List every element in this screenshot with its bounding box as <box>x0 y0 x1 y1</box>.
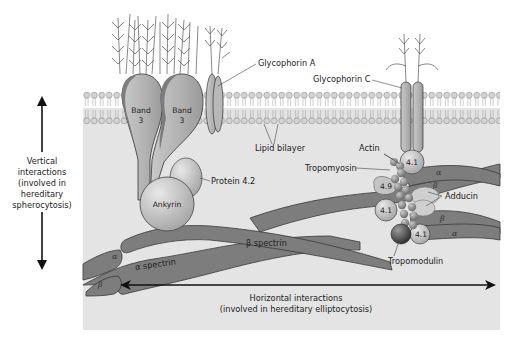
protein-4-9-label: 4.9 <box>380 182 392 191</box>
erythrocyte-membrane-diagram: Band 3 Band 3 Glycophorin A Lipid bilaye… <box>0 0 512 343</box>
vertical-label-line1: Vertical <box>27 156 58 166</box>
glycophorin-a-label: Glycophorin A <box>258 58 316 68</box>
adducin-label: Adducin <box>445 191 478 201</box>
glycophorin-c-glycans <box>386 34 438 82</box>
band3-right-number: 3 <box>180 116 185 125</box>
tropomodulin-label: Tropomodulin <box>387 256 443 266</box>
protein-4-2-label: Protein 4.2 <box>211 176 255 186</box>
lipid-bilayer-label: Lipid bilayer <box>255 143 306 153</box>
ankyrin-label: Ankyrin <box>153 200 182 209</box>
alpha-label-far-left: α <box>112 252 118 261</box>
vertical-label-line4: hereditary <box>21 189 64 199</box>
band3-left-number: 3 <box>139 116 144 125</box>
actin-label: Actin <box>359 143 380 153</box>
protein-4-1-top-label: 4.1 <box>406 158 418 167</box>
beta-spectrin-label: β spectrin <box>246 238 287 248</box>
vertical-label-line2: interactions <box>18 167 67 177</box>
vertical-label-line5: spherocytosis) <box>12 200 71 210</box>
protein-4-1-mid-label: 4.1 <box>380 206 392 215</box>
glycophorin-a <box>206 74 223 134</box>
alpha-label-upper-right: α <box>436 168 442 177</box>
tropomodulin <box>391 224 411 244</box>
tropomyosin-label: Tropomyosin <box>304 163 357 173</box>
horizontal-label-line2: (involved in hereditary elliptocytosis) <box>220 304 372 314</box>
band3-right-label: Band <box>172 106 192 115</box>
beta-label-far-left: β <box>97 280 103 289</box>
band3-glycans <box>112 14 198 74</box>
alpha-label-lower-right: α <box>452 229 458 238</box>
vertical-label-line3: (involved in <box>18 178 66 188</box>
band3-left-label: Band <box>131 106 151 115</box>
horizontal-label-line1: Horizontal interactions <box>250 293 343 303</box>
glycophorin-a-glycans <box>205 26 230 74</box>
glycophorin-c-label: Glycophorin C <box>313 74 371 84</box>
protein-4-1-bottom-label: 4.1 <box>415 230 427 239</box>
beta-label-lower-right: β <box>439 214 445 223</box>
